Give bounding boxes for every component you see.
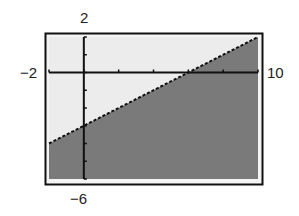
calculator-graph bbox=[0, 0, 299, 216]
